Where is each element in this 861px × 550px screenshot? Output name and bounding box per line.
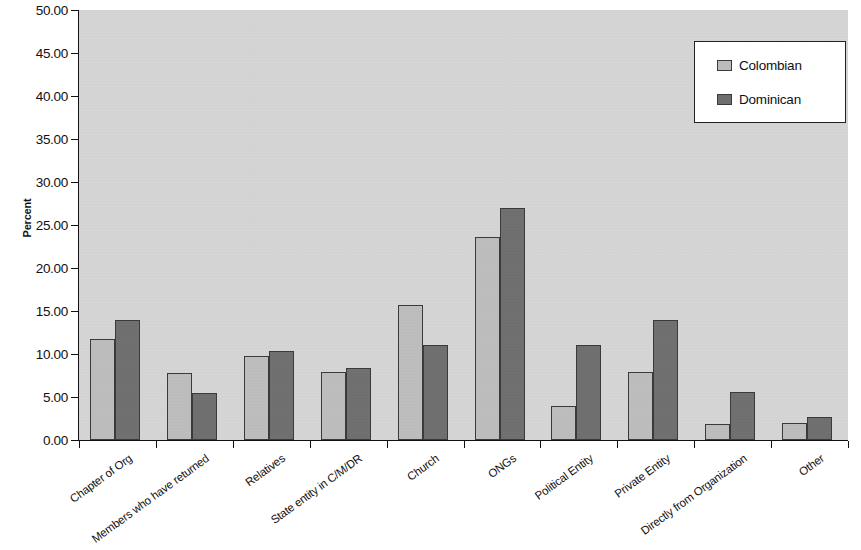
bar-group (617, 10, 694, 440)
bar[interactable] (730, 392, 755, 440)
x-axis-category-label: Other (796, 452, 826, 478)
bar[interactable] (782, 423, 807, 440)
bar-group (310, 10, 387, 440)
bar[interactable] (807, 417, 832, 440)
bar-group (233, 10, 310, 440)
bar[interactable] (90, 339, 115, 440)
legend: Colombian Dominican (694, 41, 846, 123)
y-axis-tick-mark (71, 311, 78, 312)
x-axis-category-label: ONGs (486, 452, 518, 480)
x-axis-tick-mark (617, 441, 618, 448)
y-axis-tick-mark (71, 10, 78, 11)
bar-group (387, 10, 464, 440)
y-axis-tick-mark (71, 96, 78, 97)
x-axis-category-label: Political Entity (533, 452, 595, 502)
y-axis-tick-mark (71, 225, 78, 226)
x-axis-tick-mark (848, 441, 849, 448)
y-axis-tick-mark (71, 397, 78, 398)
y-axis-tick-mark (71, 182, 78, 183)
x-axis-tick-mark (694, 441, 695, 448)
y-axis-tick-mark (71, 440, 78, 441)
y-axis-tick-label: 30.00 (6, 175, 68, 190)
x-axis-category-label: Private Entity (612, 452, 672, 500)
y-axis-tick-label: 20.00 (6, 261, 68, 276)
bar[interactable] (398, 305, 423, 440)
bar-group (156, 10, 233, 440)
y-axis-tick-labels: 50.0045.0040.0035.0030.0025.0020.0015.00… (0, 0, 68, 550)
bar-group (79, 10, 156, 440)
x-axis-category-label: Chapter of Org (67, 452, 133, 505)
y-axis-tick-label: 5.00 (6, 390, 68, 405)
bar[interactable] (115, 320, 140, 440)
x-axis-category-label: Church (405, 452, 441, 483)
y-axis-tick-mark (71, 268, 78, 269)
y-axis-tick-label: 45.00 (6, 46, 68, 61)
bar[interactable] (192, 393, 217, 440)
bar[interactable] (653, 320, 678, 440)
y-axis-tick-label: 10.00 (6, 347, 68, 362)
bar-group (540, 10, 617, 440)
bar[interactable] (551, 406, 576, 440)
x-axis-tick-mark (310, 441, 311, 448)
y-axis-tick-label: 35.00 (6, 132, 68, 147)
bar[interactable] (423, 345, 448, 440)
bar[interactable] (500, 208, 525, 440)
bar-chart: Percent 50.0045.0040.0035.0030.0025.0020… (0, 0, 861, 550)
legend-label-colombian: Colombian (739, 58, 802, 73)
y-axis-tick-mark (71, 354, 78, 355)
bar[interactable] (167, 373, 192, 440)
legend-label-dominican: Dominican (739, 92, 801, 107)
bar[interactable] (321, 372, 346, 440)
x-axis-category-label: Relatives (244, 452, 288, 488)
bar[interactable] (628, 372, 653, 440)
y-axis-tick-label: 15.00 (6, 304, 68, 319)
y-axis-tick-mark (71, 53, 78, 54)
x-axis-tick-mark (540, 441, 541, 448)
legend-item-colombian[interactable]: Colombian (717, 58, 802, 73)
bar[interactable] (576, 345, 601, 440)
legend-swatch-dominican (717, 94, 732, 105)
x-axis-tick-mark (233, 441, 234, 448)
x-axis-tick-mark (771, 441, 772, 448)
x-axis-tick-mark (156, 441, 157, 448)
bar-group (464, 10, 541, 440)
bar[interactable] (269, 351, 294, 440)
y-axis-tick-label: 25.00 (6, 218, 68, 233)
y-axis-tick-label: 50.00 (6, 3, 68, 18)
bar[interactable] (705, 424, 730, 440)
legend-swatch-colombian (717, 60, 732, 71)
bar[interactable] (244, 356, 269, 440)
y-axis-tick-mark (71, 139, 78, 140)
y-axis-tick-label: 0.00 (6, 433, 68, 448)
x-axis-tick-mark (387, 441, 388, 448)
legend-item-dominican[interactable]: Dominican (717, 92, 801, 107)
bar[interactable] (346, 368, 371, 440)
y-axis-tick-label: 40.00 (6, 89, 68, 104)
x-axis-tick-mark (79, 441, 80, 448)
x-axis-tick-mark (464, 441, 465, 448)
bar[interactable] (475, 237, 500, 440)
